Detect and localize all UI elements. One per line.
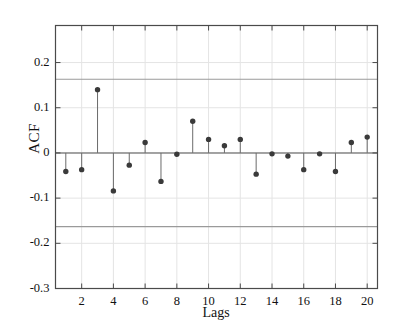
data-point-marker bbox=[63, 169, 68, 174]
y-tick-label: -0.1 bbox=[30, 190, 50, 205]
x-tick-label: 20 bbox=[347, 294, 387, 309]
data-point-marker bbox=[222, 143, 227, 148]
y-tick-label: -0.2 bbox=[30, 235, 50, 250]
data-point-marker bbox=[238, 137, 243, 142]
data-point-marker bbox=[253, 171, 258, 176]
data-point-marker bbox=[95, 87, 100, 92]
figure-background bbox=[0, 0, 406, 331]
y-tick-label: 0.2 bbox=[34, 55, 50, 70]
acf-plot-canvas bbox=[0, 0, 406, 331]
data-point-marker bbox=[285, 153, 290, 158]
acf-chart-figure: ACF Lags 0.20.10-0.1-0.2-0.3 24681012141… bbox=[0, 0, 406, 331]
y-tick-label: -0.3 bbox=[30, 281, 50, 296]
y-tick-label: 0 bbox=[43, 145, 49, 160]
data-point-marker bbox=[333, 169, 338, 174]
data-point-marker bbox=[79, 167, 84, 172]
data-point-marker bbox=[301, 167, 306, 172]
y-axis-label: ACF bbox=[26, 109, 43, 169]
data-point-marker bbox=[364, 134, 369, 139]
data-point-marker bbox=[190, 119, 195, 124]
y-tick-label: 0.1 bbox=[34, 100, 50, 115]
data-point-marker bbox=[127, 162, 132, 167]
data-point-marker bbox=[174, 152, 179, 157]
data-point-marker bbox=[206, 137, 211, 142]
data-point-marker bbox=[142, 140, 147, 145]
data-point-marker bbox=[269, 151, 274, 156]
data-point-marker bbox=[349, 140, 354, 145]
data-point-marker bbox=[111, 188, 116, 193]
data-point-marker bbox=[317, 151, 322, 156]
data-point-marker bbox=[158, 179, 163, 184]
